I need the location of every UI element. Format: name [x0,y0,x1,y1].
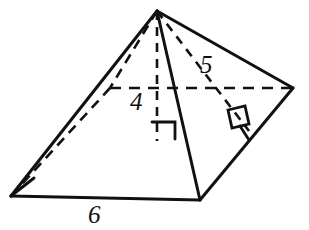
pyramid-figure: 4 5 6 [0,0,309,230]
base-edge-left-front [11,196,200,200]
height-label: 4 [130,89,143,114]
slant-height-label: 5 [200,52,213,77]
pyramid-drawing [0,0,309,230]
base-edge-label: 6 [88,202,101,227]
hidden-base-edge-back-left [11,88,110,196]
base-edge-front-right [200,88,293,200]
hidden-edge-apex-back [110,11,157,88]
right-angle-marker-altitude [152,122,175,139]
edge-apex-right [157,11,293,88]
